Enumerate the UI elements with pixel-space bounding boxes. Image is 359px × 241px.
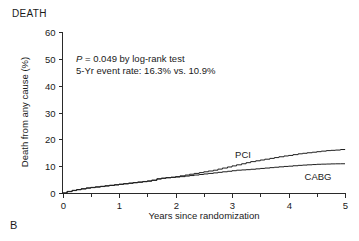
statistics-annotation: P = 0.049 by log-rank test 5-Yr event ra… (76, 53, 216, 76)
y-tick-label: 40 (45, 81, 56, 92)
y-tick-label: 20 (45, 134, 56, 145)
y-tick-label: 10 (45, 161, 56, 172)
y-tick-label: 50 (45, 54, 56, 65)
curve-pci (63, 149, 346, 193)
kaplan-meier-chart: 0102030405060 Death from any cause (%) 0… (0, 0, 359, 241)
x-tick-label: 0 (61, 200, 66, 211)
figure-panel: DEATH 0102030405060 Death from any cause… (0, 0, 359, 241)
y-axis-title: Death from any cause (%) (19, 57, 30, 167)
series-label-pci: PCI (235, 149, 251, 160)
pvalue-text: = 0.049 by log-rank test (82, 53, 185, 64)
x-axis: 012345 Years since randomization (61, 193, 348, 221)
curve-cabg (63, 164, 346, 193)
x-tick-label: 5 (343, 200, 348, 211)
y-axis: 0102030405060 Death from any cause (%) (19, 27, 63, 199)
pvalue-line: P = 0.049 by log-rank test (76, 53, 185, 64)
panel-letter: B (10, 219, 17, 231)
x-tick-label: 4 (287, 200, 292, 211)
y-tick-label: 60 (45, 27, 56, 38)
series-labels: PCI CABG (235, 149, 331, 182)
series-label-cabg: CABG (305, 171, 332, 182)
y-axis-tick-labels: 0102030405060 (45, 27, 56, 199)
y-axis-ticks (59, 33, 63, 194)
x-axis-title: Years since randomization (148, 210, 259, 221)
event-rate-line: 5-Yr event rate: 16.3% vs. 10.9% (76, 65, 216, 76)
survival-curves (63, 149, 346, 193)
y-tick-label: 0 (50, 188, 55, 199)
x-tick-label: 1 (117, 200, 122, 211)
y-tick-label: 30 (45, 108, 56, 119)
